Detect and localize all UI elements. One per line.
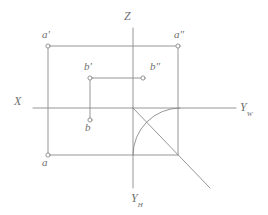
axis-label-yw: YW [240, 101, 253, 116]
point-label-b-top: b [85, 122, 91, 133]
point-label-b-side: b″ [150, 61, 160, 72]
point-label-a-side-prime: ″ [180, 28, 185, 40]
point-label-a-front-prime: ′ [48, 28, 50, 40]
point-marker-a-side [176, 44, 180, 48]
projection-drawing [0, 0, 268, 215]
axis-label-yw-main: Y [240, 100, 247, 114]
point-label-a-side: a″ [174, 29, 184, 40]
point-label-b-top-letter: b [85, 121, 91, 133]
axis-label-yw-subscript: W [247, 110, 253, 118]
diagram-canvas: X Z YW YH a′ a″ a b′ b″ b [0, 0, 268, 215]
bisector-45-line [133, 108, 210, 188]
point-label-b-front: b′ [84, 61, 92, 72]
axis-label-yh: YH [131, 192, 143, 207]
point-marker-b-side [141, 76, 145, 80]
point-label-a-front: a′ [42, 29, 50, 40]
point-label-b-side-prime: ″ [156, 60, 161, 72]
point-marker-a-front [46, 44, 50, 48]
point-label-b-front-prime: ′ [90, 60, 92, 72]
point-label-a-top: a [42, 157, 48, 168]
point-label-a-top-letter: a [42, 156, 48, 168]
point-marker-b-front [88, 76, 92, 80]
axis-label-yh-main: Y [131, 191, 138, 205]
axis-label-x: X [14, 95, 21, 107]
axis-label-yh-subscript: H [138, 201, 143, 209]
axis-label-z: Z [124, 10, 131, 22]
